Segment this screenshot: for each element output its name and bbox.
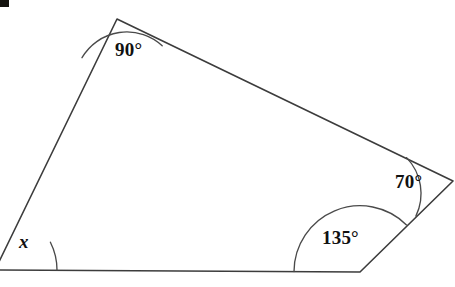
diagram-background (0, 0, 455, 287)
angle-label-bottom-right: 135° (322, 228, 359, 247)
quadrilateral-figure (0, 0, 455, 287)
angle-label-top: 90° (115, 40, 142, 59)
angle-label-right: 70° (395, 172, 422, 191)
angle-label-unknown-x: x (19, 232, 29, 251)
scan-artifact-mark (0, 0, 9, 7)
diagram-canvas: 90° 70° 135° x (0, 0, 455, 287)
